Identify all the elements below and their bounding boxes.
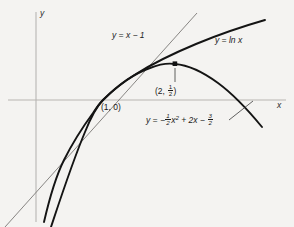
parabola-equation-label: y = −12x2 + 2x − 32 [146, 113, 213, 127]
log-curve-label: y = ln x [215, 36, 242, 45]
x-axis-label: x [277, 101, 281, 110]
y-axis-label: y [40, 9, 44, 18]
vertex-point-marker [173, 61, 178, 66]
parabola-middle-terms: + 2x − [179, 115, 207, 125]
parabola-coefficient-denominator: 2 [165, 120, 170, 126]
parabola-constant-fraction: 32 [208, 113, 213, 127]
vertex-fraction: 12 [168, 84, 173, 98]
parabola-constant-denominator: 2 [208, 120, 213, 126]
tangency-point-label: (1, 0) [101, 103, 121, 112]
parabola-coefficient-fraction: 12 [165, 113, 170, 127]
vertex-fraction-denominator: 2 [168, 91, 173, 97]
parabola-label-prefix: y = − [146, 115, 165, 125]
vertex-label-suffix: ) [174, 86, 177, 96]
vertex-point-label: (2, 12) [155, 84, 176, 98]
math-figure: y x y = x − 1 y = ln x (2, 12) (1, 0) y … [0, 0, 294, 227]
tangent-line-label: y = x − 1 [112, 31, 145, 40]
vertex-label-prefix: (2, [155, 86, 167, 96]
